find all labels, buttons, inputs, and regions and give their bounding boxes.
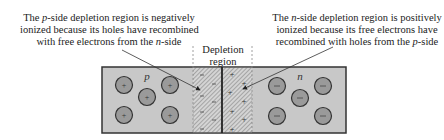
p-region-label: p — [143, 70, 150, 82]
pn-junction-diagram: +++ ++ p n +++ +++ + — [0, 0, 444, 140]
svg-text:+: + — [241, 96, 246, 106]
svg-text:+: + — [241, 114, 246, 124]
svg-text:+: + — [229, 69, 234, 79]
svg-text:+: + — [168, 81, 173, 90]
svg-text:+: + — [241, 78, 246, 88]
svg-text:+: + — [122, 111, 127, 120]
svg-text:+: + — [227, 87, 232, 97]
svg-text:+: + — [229, 124, 234, 134]
svg-text:+: + — [168, 111, 173, 120]
p-depletion-region — [193, 68, 222, 132]
svg-text:+: + — [145, 93, 150, 102]
n-depletion-region — [222, 68, 252, 132]
n-region-label: n — [297, 70, 303, 82]
svg-text:+: + — [122, 81, 127, 90]
svg-text:+: + — [229, 106, 234, 116]
